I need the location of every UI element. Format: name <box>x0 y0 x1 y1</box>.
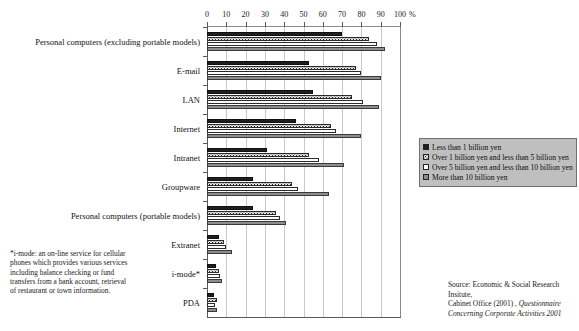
legend-label: Over 1 billion yen and less than 5 billi… <box>432 153 569 162</box>
legend-label: Less than 1 billion yen <box>432 143 501 152</box>
bar <box>207 90 313 94</box>
legend-label: More than 10 billion yen <box>432 173 508 182</box>
y-axis-category-label: Internet <box>0 124 200 134</box>
x-axis-tick <box>400 22 401 27</box>
bar <box>207 124 331 128</box>
y-axis-category-label: Personal computers (excluding portable m… <box>0 37 200 47</box>
axis-right-border <box>400 26 401 318</box>
legend-swatch <box>423 164 429 170</box>
bar <box>207 148 267 152</box>
x-axis-line <box>207 317 401 318</box>
bar <box>207 245 226 249</box>
plot-area <box>207 27 400 317</box>
x-axis-tick-label: 30 <box>261 10 269 19</box>
bar <box>207 66 356 70</box>
bar <box>207 274 220 278</box>
bar <box>207 182 292 186</box>
bar <box>207 240 224 244</box>
bar <box>207 298 217 302</box>
x-axis-tick-label: 80 <box>357 10 365 19</box>
footnote-i-mode: *i-mode: an on-line service for cellular… <box>10 249 132 295</box>
legend-item: Over 1 billion yen and less than 5 billi… <box>423 152 573 162</box>
bar <box>207 42 377 46</box>
bar <box>207 187 298 191</box>
source-line-2-italic: Questionnaire <box>519 299 561 308</box>
legend: Less than 1 billion yenOver 1 billion ye… <box>419 138 577 187</box>
bar <box>207 235 219 239</box>
source-line-3-italic: Concerning Corporate Activities 2001 <box>448 309 561 318</box>
bar <box>207 293 214 297</box>
x-axis-tick-label: 20 <box>242 10 250 19</box>
bar <box>207 76 381 80</box>
x-axis-tick-label: 90 <box>377 10 385 19</box>
x-axis-tick-label: 100 <box>394 10 406 19</box>
bar <box>207 221 286 225</box>
legend-swatch <box>423 174 429 180</box>
bar <box>207 37 369 41</box>
bar <box>207 206 253 210</box>
y-axis-category-label: E-mail <box>0 66 200 76</box>
legend-item: More than 10 billion yen <box>423 172 573 182</box>
bar <box>207 71 361 75</box>
chart-figure: 0102030405060708090100 % Personal comput… <box>0 0 579 331</box>
bar <box>207 250 232 254</box>
x-axis-tick-label: 40 <box>280 10 288 19</box>
legend-swatch <box>423 154 429 160</box>
bar <box>207 119 296 123</box>
bar <box>207 47 385 51</box>
y-axis-category-label: Extranet <box>0 240 200 250</box>
bar <box>207 308 217 312</box>
x-axis-tick-label: 10 <box>222 10 230 19</box>
bar <box>207 279 222 283</box>
bar <box>207 211 276 215</box>
bar <box>207 264 216 268</box>
x-axis-tick-label: 50 <box>300 10 308 19</box>
bar <box>207 61 309 65</box>
bar <box>207 105 379 109</box>
figure-top-strip <box>250 0 480 4</box>
bar <box>207 303 215 307</box>
bar <box>207 269 219 273</box>
legend-item: Over 5 billion yen and less than 10 bill… <box>423 162 573 172</box>
bar <box>207 216 280 220</box>
source-line-1: Source: Economic & Social Research Insit… <box>448 280 559 299</box>
legend-swatch <box>423 144 429 150</box>
y-axis-category-label: PDA <box>0 298 200 308</box>
legend-item: Less than 1 billion yen <box>423 142 573 152</box>
bar <box>207 100 363 104</box>
source-note: Source: Economic & Social Research Insit… <box>448 280 578 318</box>
bar <box>207 32 342 36</box>
x-axis-tick-label: 0 <box>205 10 209 19</box>
bar <box>207 153 309 157</box>
bar <box>207 129 336 133</box>
y-axis-category-label: Intranet <box>0 153 200 163</box>
bar <box>207 192 329 196</box>
bar <box>207 158 319 162</box>
source-line-2-prefix: Cabinet Office (2001) , <box>448 299 519 308</box>
bar <box>207 95 352 99</box>
x-axis-unit-label: % <box>409 10 416 19</box>
bar <box>207 163 344 167</box>
y-axis-category-label: Groupware <box>0 182 200 192</box>
y-axis-category-label: LAN <box>0 95 200 105</box>
x-axis-tick-label: 70 <box>338 10 346 19</box>
y-axis-category-label: Personal computers (portable models) <box>0 211 200 221</box>
bar <box>207 177 253 181</box>
bar <box>207 134 361 138</box>
legend-label: Over 5 billion yen and less than 10 bill… <box>432 163 573 172</box>
x-axis-tick-label: 60 <box>319 10 327 19</box>
